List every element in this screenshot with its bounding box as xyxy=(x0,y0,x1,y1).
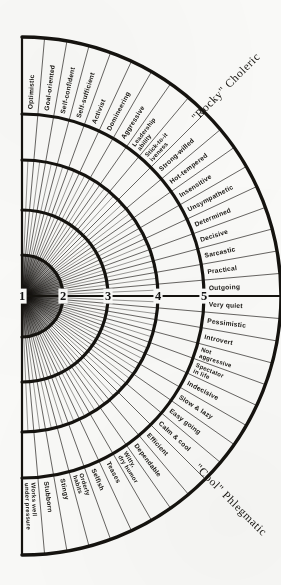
axis-number-4: 4 xyxy=(155,289,162,303)
axis-number-3: 3 xyxy=(105,289,111,303)
temperament-wheel-figure: OptimisticGoal-orientedSelf-confidentSel… xyxy=(0,0,281,585)
axis-number-5: 5 xyxy=(201,289,207,303)
axis-number-1: 1 xyxy=(19,289,25,303)
temperament-wheel-svg: OptimisticGoal-orientedSelf-confidentSel… xyxy=(0,0,281,585)
axis-number-2: 2 xyxy=(60,289,66,303)
